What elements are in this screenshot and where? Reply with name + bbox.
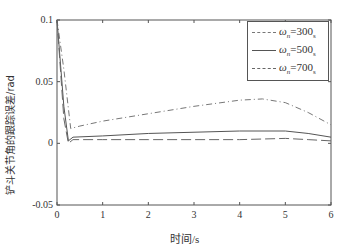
y-tick-label: 0.1 [41,14,54,25]
legend-item-300: ωn=300s [252,25,328,39]
y-tick-label: 0.05 [36,76,54,87]
x-tick-label: 4 [237,209,242,220]
legend-item-700: ωn=700s [252,61,328,75]
legend-label: ωn=700s [279,61,316,76]
x-tick-label: 2 [146,209,151,220]
y-tick-label: 0 [48,137,53,148]
legend-item-500: ωn=500s [252,43,328,57]
x-tick-label: 3 [192,209,197,220]
solid-line-icon [252,50,276,51]
dashed-line-icon [252,68,276,69]
x-tick-label: 5 [283,209,288,220]
y-tick-label: -0.05 [32,199,53,210]
x-tick-label: 6 [329,209,334,220]
chart-legend: ωn=300s ωn=500s ωn=700s [247,21,329,81]
svg-text:铲斗关节角的跟踪误差/rad: 铲斗关节角的跟踪误差/rad [4,75,16,195]
y-axis-label: 铲斗关节角的跟踪误差/rad [2,60,20,210]
x-tick-label: 1 [100,209,105,220]
legend-label: ωn=300s [279,25,316,40]
dash-dot-line-icon [252,32,276,33]
x-axis-label: 时间/s [170,230,199,246]
legend-label: ωn=500s [279,43,316,58]
x-tick-label: 0 [55,209,60,220]
